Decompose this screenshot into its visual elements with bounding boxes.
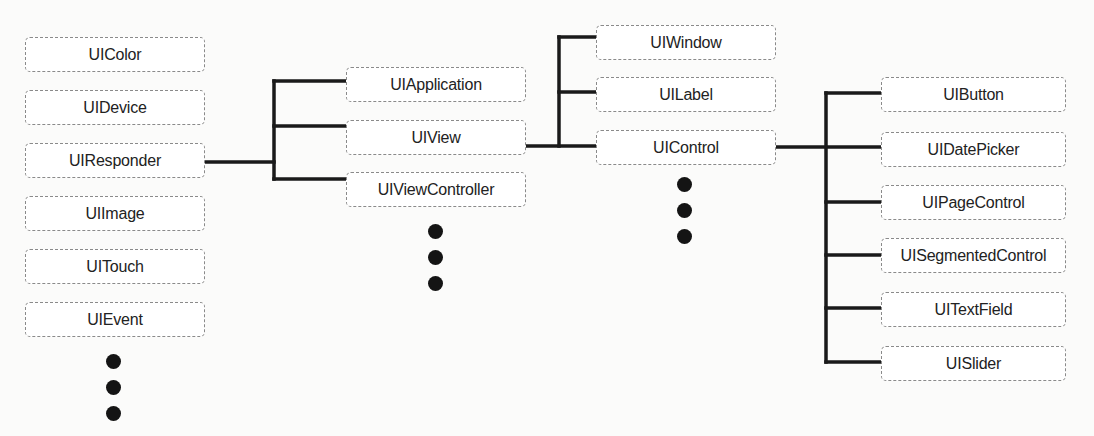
- ellipsis-dot-icon: [106, 354, 121, 369]
- node-label: UIResponder: [69, 152, 161, 170]
- node-uiview: UIView: [346, 120, 526, 155]
- node-uibutton: UIButton: [881, 77, 1066, 112]
- node-uievent: UIEvent: [25, 302, 205, 337]
- node-label: UISegmentedControl: [901, 247, 1047, 265]
- node-label: UIWindow: [650, 34, 721, 52]
- ellipsis-dot-icon: [428, 224, 443, 239]
- node-uislider: UISlider: [881, 346, 1066, 381]
- node-uiviewcontroller: UIViewController: [346, 172, 526, 207]
- node-uiresponder: UIResponder: [25, 143, 205, 178]
- node-label: UITextField: [935, 301, 1013, 319]
- node-label: UIPageControl: [922, 194, 1024, 212]
- node-label: UIDevice: [83, 99, 146, 117]
- node-uiwindow: UIWindow: [596, 25, 776, 60]
- node-label: UIView: [411, 129, 460, 147]
- node-uisegmentedcontrol: UISegmentedControl: [881, 238, 1066, 273]
- ellipsis-dot-icon: [106, 406, 121, 421]
- node-uiapplication: UIApplication: [346, 67, 526, 102]
- node-uiimage: UIImage: [25, 196, 205, 231]
- ellipsis-dot-icon: [106, 380, 121, 395]
- node-uicontrol: UIControl: [596, 130, 776, 165]
- node-label: UIViewController: [378, 181, 495, 199]
- node-label: UITouch: [86, 258, 143, 276]
- node-label: UIDatePicker: [928, 141, 1020, 159]
- ellipsis-dot-icon: [677, 177, 692, 192]
- ellipsis-dot-icon: [677, 229, 692, 244]
- ellipsis-dot-icon: [428, 276, 443, 291]
- node-uitouch: UITouch: [25, 249, 205, 284]
- node-uidatepicker: UIDatePicker: [881, 132, 1066, 167]
- node-label: UIButton: [943, 86, 1004, 104]
- node-label: UIControl: [653, 139, 719, 157]
- node-label: UISlider: [946, 355, 1001, 373]
- node-label: UILabel: [659, 86, 713, 104]
- ellipsis-dot-icon: [677, 203, 692, 218]
- node-label: UIImage: [85, 205, 144, 223]
- node-uipagecontrol: UIPageControl: [881, 185, 1066, 220]
- node-label: UIApplication: [390, 76, 482, 94]
- node-uicolor: UIColor: [25, 37, 205, 72]
- node-uitextfield: UITextField: [881, 292, 1066, 327]
- node-label: UIColor: [89, 46, 142, 64]
- ellipsis-dot-icon: [428, 250, 443, 265]
- node-uilabel: UILabel: [596, 77, 776, 112]
- node-uidevice: UIDevice: [25, 90, 205, 125]
- node-label: UIEvent: [87, 311, 143, 329]
